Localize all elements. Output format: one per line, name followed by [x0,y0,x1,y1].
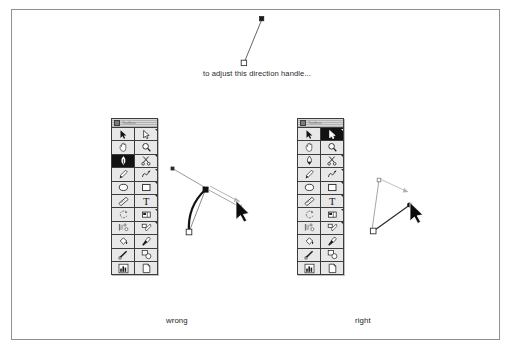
mouse-cursor-arrow[interactable] [410,203,423,224]
left-direction-handle-point[interactable] [171,167,175,171]
tool-grid: T [298,128,343,274]
left-handle-point[interactable] [377,178,381,182]
tool-graph-tool[interactable] [112,262,134,274]
tool-grid: T [112,128,157,274]
tool-rotate-tool[interactable] [112,208,134,220]
bottom-anchor-square[interactable] [370,228,376,234]
tool-reflect-tool[interactable] [135,208,157,220]
tool-auto-trace-tool[interactable] [135,249,157,261]
close-box-icon[interactable] [300,120,306,126]
palette-title: Toolbox [308,120,322,126]
direct-selection-arrow-icon [141,129,152,140]
tool-paint-bucket-tool[interactable] [298,235,320,247]
tool-popup-triangle-icon [155,182,157,184]
tool-hand-tool[interactable] [112,141,134,153]
type-T-icon: T [327,196,338,207]
tool-popup-triangle-icon [155,129,157,131]
toolbox-palette-wrong[interactable]: Toolbox [111,118,158,275]
hand-icon [118,142,129,153]
tool-rectangle-tool[interactable] [135,182,157,194]
svg-text:T: T [142,196,149,207]
auto-trace-icon [327,249,338,260]
tool-direct-selection-tool[interactable] [321,128,343,140]
bottom-anchor-square[interactable] [186,229,192,235]
palette-title: Toolbox [122,120,136,126]
gradient-line-icon [118,249,129,260]
tool-popup-triangle-icon [155,222,157,224]
ellipse-icon [304,182,315,193]
pen-nib-icon [304,155,315,166]
tool-measure-tool[interactable] [298,195,320,207]
svg-text:T: T [328,196,335,207]
selected-anchor-square[interactable] [203,187,209,193]
freehand-curve-icon [327,169,338,180]
tool-popup-triangle-icon [341,169,343,171]
pen-nib-icon [118,155,129,166]
figure-label-right: right [355,316,371,325]
tool-direct-selection-tool[interactable] [135,128,157,140]
scale-icon [327,222,338,233]
tool-eyedropper-tool[interactable] [135,235,157,247]
paint-bucket-icon [304,236,315,247]
tool-scale-tool[interactable] [321,222,343,234]
tool-pen-tool[interactable] [112,155,134,167]
tool-rectangle-tool[interactable] [321,182,343,194]
tool-type-tool[interactable]: T [135,195,157,207]
figure-right-illustration [354,162,434,242]
anchor-point-square[interactable] [241,60,246,65]
tool-blend-tool[interactable] [112,222,134,234]
tool-graph-tool[interactable] [298,262,320,274]
scale-icon [141,222,152,233]
tool-eyedropper-tool[interactable] [321,235,343,247]
tool-ellipse-tool[interactable] [298,182,320,194]
eyedropper-icon [327,236,338,247]
tool-pen-tool[interactable] [298,155,320,167]
toolbox-palette-right[interactable]: Toolbox [297,118,344,275]
close-box-icon[interactable] [114,120,120,126]
tool-paintbrush-tool[interactable] [112,168,134,180]
tool-popup-triangle-icon [341,155,343,157]
magnifier-icon [327,142,338,153]
tool-scissors-tool[interactable] [321,155,343,167]
palette-titlebar[interactable]: Toolbox [298,119,343,128]
tool-page-tool[interactable] [135,262,157,274]
mouse-cursor-arrow[interactable] [236,201,249,223]
tool-popup-triangle-icon [155,155,157,157]
tool-gradient-tool[interactable] [112,249,134,261]
tool-scissors-tool[interactable] [135,155,157,167]
scissors-icon [141,155,152,166]
direction-handle-point[interactable] [260,17,264,21]
tool-zoom-tool[interactable] [321,141,343,153]
tool-freehand-tool[interactable] [135,168,157,180]
caption-text: to adjust this direction handle... [0,69,514,78]
direct-selection-arrow-icon [327,129,338,140]
tool-measure-tool[interactable] [112,195,134,207]
tool-gradient-tool[interactable] [298,249,320,261]
tool-reflect-tool[interactable] [321,208,343,220]
tool-auto-trace-tool[interactable] [321,249,343,261]
tool-zoom-tool[interactable] [135,141,157,153]
tool-rotate-tool[interactable] [298,208,320,220]
tool-selection-tool[interactable] [298,128,320,140]
ruler-icon [118,196,129,207]
rectangle-icon [141,182,152,193]
selection-arrow-icon [304,129,315,140]
tool-freehand-tool[interactable] [321,168,343,180]
tool-popup-triangle-icon [341,209,343,211]
tool-scale-tool[interactable] [135,222,157,234]
tool-page-tool[interactable] [321,262,343,274]
tool-hand-tool[interactable] [298,141,320,153]
top-direction-handle-figure [230,12,280,72]
tool-paint-bucket-tool[interactable] [112,235,134,247]
tool-ellipse-tool[interactable] [112,182,134,194]
direction-handle-line [244,19,262,63]
tool-type-tool[interactable]: T [321,195,343,207]
hand-icon [304,142,315,153]
eyedropper-icon [141,236,152,247]
tool-popup-triangle-icon [155,209,157,211]
palette-titlebar[interactable]: Toolbox [112,119,157,128]
tool-blend-tool[interactable] [298,222,320,234]
tool-paintbrush-tool[interactable] [298,168,320,180]
tool-popup-triangle-icon [155,169,157,171]
tool-selection-tool[interactable] [112,128,134,140]
